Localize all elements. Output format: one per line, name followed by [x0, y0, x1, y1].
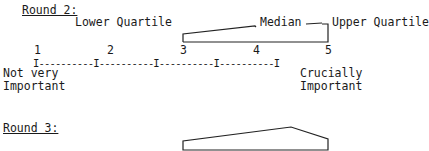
left-anchor-line2: Important — [3, 80, 65, 93]
round3-heading: Round 3: — [3, 122, 58, 135]
lower-quartile-label: Lower Quartile — [75, 16, 172, 29]
median-connector — [306, 23, 322, 24]
median-label: Median — [260, 16, 302, 29]
round3-distribution-shape — [183, 127, 328, 150]
rating-scale-line: I----------I----------I----------I------… — [33, 57, 279, 70]
round2-distribution-shape — [183, 26, 256, 42]
tick-1: 1 — [34, 44, 41, 57]
tick-4: 4 — [253, 44, 260, 57]
right-anchor-line2: Important — [300, 80, 362, 93]
tick-2: 2 — [107, 44, 114, 57]
round2-heading: Round 2: — [22, 4, 77, 17]
upper-quartile-label: Upper Quartile — [332, 16, 429, 29]
tick-5: 5 — [325, 44, 332, 57]
tick-3: 3 — [180, 44, 187, 57]
